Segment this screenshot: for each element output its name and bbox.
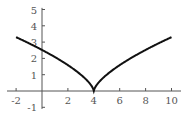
function-curve bbox=[16, 37, 171, 91]
x-tick-label: 6 bbox=[117, 95, 123, 106]
y-tick-label: 2 bbox=[31, 53, 37, 64]
x-tick-label: 10 bbox=[165, 95, 178, 106]
y-tick-label: -1 bbox=[27, 102, 37, 113]
x-tick-label: 4 bbox=[91, 95, 97, 106]
y-tick-label: 5 bbox=[31, 5, 37, 16]
x-tick-label: 2 bbox=[65, 95, 71, 106]
y-tick-label: 1 bbox=[31, 70, 37, 81]
tick-labels: -2246810-112345 bbox=[11, 5, 178, 114]
y-tick-label: 4 bbox=[31, 21, 37, 32]
x-tick-label: 8 bbox=[142, 95, 148, 106]
x-tick-label: -2 bbox=[11, 95, 21, 106]
chart: -2246810-112345 bbox=[0, 0, 192, 115]
